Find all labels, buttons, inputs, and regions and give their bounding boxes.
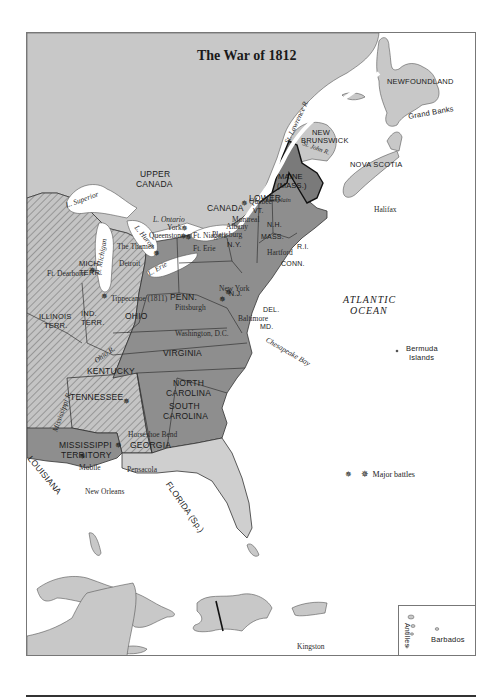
label-ind-terr-1: IND. (81, 310, 97, 318)
cape-breton (387, 132, 402, 151)
svg-text:✵: ✵ (345, 470, 352, 479)
bahamas (89, 533, 101, 556)
city-albany: Albany (226, 223, 248, 231)
label-south-carolina-2: CAROLINA (163, 412, 208, 421)
bermuda-dot (396, 350, 399, 353)
label-illinois-terr-2: TERR. (44, 322, 68, 330)
city-halifax: Halifax (374, 206, 397, 214)
label-md: MD. (260, 323, 273, 330)
label-vt: VT. (253, 207, 264, 214)
florida-keys (247, 544, 259, 556)
city-queenston: Queenston (149, 232, 181, 240)
label-atlantic-2: OCEAN (350, 306, 388, 316)
label-north-carolina-1: NORTH (173, 379, 204, 388)
svg-text:✵: ✵ (123, 397, 130, 406)
label-barbados: Barbados (431, 636, 465, 644)
battle-star-icon: ✵ (361, 469, 369, 479)
label-bermuda-1: Bermuda (406, 345, 438, 353)
city-pittsburgh: Pittsburgh (175, 304, 206, 312)
label-mississippi-terr-1: MISSISSIPPI (59, 441, 112, 450)
label-north-carolina-2: CAROLINA (166, 389, 211, 398)
label-ind-terr-2: TERR. (81, 319, 105, 327)
city-baltimore: Baltimore (238, 315, 268, 323)
label-del: DEL. (263, 306, 279, 313)
puerto-rico (292, 602, 327, 616)
label-bermuda-2: Islands (409, 354, 434, 362)
label-virginia: VIRGINIA (163, 349, 202, 358)
label-antilles: Antilles (404, 623, 411, 647)
label-nh: N.H. (267, 221, 282, 228)
label-mass: MASS. (261, 233, 284, 240)
label-kentucky: KENTUCKY (87, 367, 135, 376)
water-l-ontario: L. Ontario (153, 216, 185, 224)
city-pensacola: Pensacola (127, 466, 157, 474)
svg-text:✵: ✵ (185, 233, 192, 242)
label-mississippi-terr-2: TERRITORY (61, 451, 112, 460)
svg-text:✵: ✵ (115, 441, 122, 450)
label-ri: R.I. (297, 243, 309, 250)
label-upper-canada-2: CANADA (136, 180, 173, 189)
label-illinois-terr-1: ILLINOIS (39, 313, 71, 321)
legend: ✵Major battles (361, 470, 415, 479)
water-l-champlain: L. Champlain (255, 197, 291, 204)
florida-spanish (122, 438, 252, 538)
city-horseshoe-bend: Horseshoe Bend (128, 431, 177, 439)
nova-scotia-land (343, 151, 399, 197)
city-mobile: Mobile (79, 464, 101, 472)
city-new-orleans: New Orleans (85, 488, 124, 496)
label-lower-canada-2: CANADA (207, 204, 244, 213)
city-ft-niagara: Ft. Niagara (193, 232, 227, 240)
city-detroit: Detroit (119, 260, 140, 268)
svg-text:✵: ✵ (219, 295, 226, 304)
hispaniola (193, 594, 272, 632)
city-ft-dearborn: Ft. Dearborn (47, 270, 85, 278)
label-ohio: OHIO (125, 312, 148, 321)
label-tennessee: TENNESSEE (70, 393, 123, 402)
svg-text:✵: ✵ (101, 292, 108, 301)
label-newfoundland: NEWFOUNDLAND (387, 78, 454, 86)
label-georgia: GEORGIA (130, 441, 171, 450)
city-ft-erie: Ft. Erie (193, 245, 216, 253)
footer-rule (26, 695, 476, 697)
city-hartford: Hartford (267, 249, 293, 257)
label-penn: PENN. (170, 293, 197, 302)
city-washington: Washington, D.C. (175, 330, 229, 338)
label-maine-2: (MASS.) (277, 182, 307, 190)
label-ny: N.Y. (227, 241, 241, 249)
label-atlantic-1: ATLANTIC (343, 295, 396, 305)
city-tippecanoe: Tippecanoe (1811) (111, 295, 167, 303)
city-kingston: Kingston (297, 643, 325, 651)
legend-label: Major battles (373, 470, 415, 479)
label-upper-canada-1: UPPER (140, 170, 170, 179)
label-conn: CONN. (281, 260, 305, 267)
label-nova-scotia: NOVA SCOTIA (350, 161, 403, 169)
city-new-york: New York (219, 285, 249, 293)
label-south-carolina-1: SOUTH (169, 402, 200, 411)
map-title: The War of 1812 (197, 49, 296, 63)
map-frame: ✵ ✵ ✵ ✵ ✵ ✵ ✵ ✵ ✵ ✵ ✵ ✵ ✵ The War of 181… (26, 32, 476, 656)
label-maine-1: MAINE (278, 173, 303, 181)
